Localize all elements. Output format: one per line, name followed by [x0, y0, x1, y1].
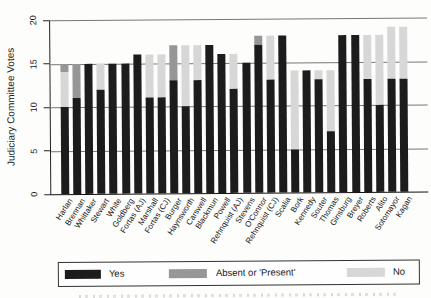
legend-label-yes: Yes: [109, 268, 125, 279]
y-tick-label: 15: [27, 56, 39, 72]
bar-carswell: [193, 45, 202, 193]
bar-scalia: [278, 36, 287, 193]
bars-layer: [50, 18, 428, 195]
bar-sotomayor: [387, 26, 396, 191]
bar-segment: [157, 54, 165, 98]
bar-segment: [169, 45, 177, 80]
plot-area: [49, 18, 428, 196]
legend-label-absent: Absent or 'Present': [216, 266, 296, 278]
y-axis-title: Judiciary Committee Votes: [4, 27, 18, 187]
bar-segment: [254, 45, 263, 193]
absent-swatch: [169, 269, 207, 278]
bar-harlan: [60, 64, 69, 195]
legend: Yes Absent or 'Present' No: [58, 260, 420, 288]
bar-segment: [182, 106, 191, 193]
bar-segment: [145, 98, 154, 194]
bar-segment: [315, 79, 324, 192]
bar-segment: [266, 36, 274, 80]
bar-segment: [375, 35, 383, 105]
y-tick-label: 10: [28, 99, 40, 115]
bar-segment: [315, 70, 323, 79]
bar-segment: [339, 35, 348, 192]
bar-segment: [375, 105, 384, 192]
bar-stevens: [242, 62, 251, 193]
bar-segment: [121, 63, 130, 194]
bar-segment: [242, 62, 251, 193]
bar-whittaker: [85, 63, 94, 194]
bar-segment: [145, 54, 153, 98]
bar-bork: [290, 71, 299, 193]
bar-segment: [169, 80, 178, 193]
bar-segment: [363, 35, 371, 79]
bar-thomas: [327, 70, 336, 192]
bar-brennan: [72, 63, 81, 194]
bar-segment: [278, 36, 287, 193]
bar-roberts: [363, 35, 372, 192]
bar-segment: [61, 107, 70, 194]
bar-kennedy: [303, 71, 312, 193]
bar-segment: [230, 88, 239, 192]
bar-segment: [97, 63, 105, 89]
bar-segment: [218, 54, 227, 193]
bar-alito: [375, 35, 384, 192]
bar-segment: [363, 79, 372, 192]
yes-swatch: [65, 270, 101, 279]
bar-marshall: [145, 54, 154, 193]
y-tick-label: 20: [27, 12, 39, 28]
bar-segment: [291, 149, 299, 193]
bar-white: [109, 63, 118, 194]
bar-segment: [194, 80, 203, 193]
bar-powell: [218, 54, 227, 193]
bar-segment: [290, 71, 299, 149]
cropped-caption-remnant: [79, 293, 397, 298]
bar-goldberg: [121, 63, 130, 194]
bar-segment: [133, 54, 142, 193]
bar-segment: [327, 131, 335, 192]
no-swatch: [347, 268, 385, 277]
bar-segment: [157, 98, 166, 194]
chart-figure: Judiciary Committee Votes 20 15 10 5 0 H…: [0, 0, 431, 298]
bar-segment: [387, 26, 395, 78]
bar-rehnquist-aj: [230, 54, 239, 193]
bar-segment: [60, 72, 68, 107]
bar-breyer: [351, 35, 360, 192]
bar-segment: [60, 64, 68, 73]
bar-souter: [315, 70, 324, 192]
bar-segment: [206, 45, 215, 193]
legend-label-no: No: [393, 266, 405, 277]
bar-segment: [303, 71, 312, 193]
y-tick-label: 5: [28, 143, 40, 159]
x-labels: HarlanBrennanWhittakerStewartWhiteGoldbe…: [0, 194, 431, 259]
bar-segment: [181, 45, 189, 106]
bar-segment: [387, 79, 396, 192]
bar-segment: [327, 70, 335, 131]
bar-stewart: [97, 63, 106, 194]
bar-segment: [254, 36, 262, 45]
bar-fortas-aj: [133, 54, 142, 193]
bar-segment: [97, 89, 106, 193]
bar-rehnquist-cj: [266, 36, 275, 193]
bar-segment: [193, 45, 201, 80]
bar-kagan: [399, 26, 408, 191]
bar-segment: [230, 54, 238, 89]
bar-ginsburg: [339, 35, 348, 192]
bar-haynsworth: [181, 45, 190, 193]
bar-segment: [351, 35, 360, 192]
bar-segment: [73, 98, 82, 194]
bar-segment: [399, 26, 407, 78]
bar-burger: [169, 45, 178, 193]
bar-o-connor: [254, 36, 263, 193]
bar-blackmun: [206, 45, 215, 193]
bar-segment: [399, 79, 408, 192]
bar-fortas-cj: [157, 54, 166, 193]
bar-segment: [72, 63, 80, 98]
bar-segment: [266, 79, 275, 192]
bar-segment: [85, 63, 94, 194]
bar-segment: [109, 63, 118, 194]
